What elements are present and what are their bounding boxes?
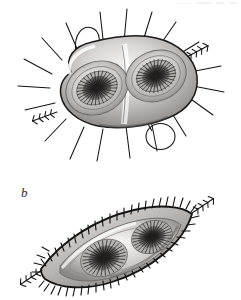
barbed-spine-lower-left [31, 108, 59, 126]
illustration-plate: b [0, 0, 241, 300]
plate-drawing [0, 0, 241, 300]
barbed-tip-right-lower [189, 195, 216, 217]
panel-label-b: b [21, 186, 28, 199]
specimen-upper [18, 9, 224, 161]
specimen-lower [18, 195, 216, 296]
